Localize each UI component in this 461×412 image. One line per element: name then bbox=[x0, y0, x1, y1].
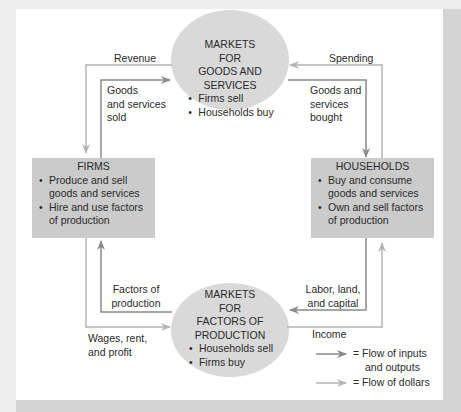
goods-market-line1: MARKETS bbox=[171, 38, 289, 52]
goods-bought-label: Goods and services bought bbox=[310, 84, 361, 125]
factor-market-bullet: Households sell bbox=[187, 342, 273, 356]
households-bullet-line: of production bbox=[328, 214, 389, 226]
households-bullet-line: goods and services bbox=[328, 187, 418, 199]
firms-title: FIRMS bbox=[32, 160, 155, 174]
factor-market-line2: FOR bbox=[166, 302, 294, 316]
factor-market-label: MARKETS FOR FACTORS OF PRODUCTION Househ… bbox=[166, 288, 294, 369]
goods-market-label: MARKETS FOR GOODS AND SERVICES Firms sel… bbox=[171, 38, 289, 119]
goods-bought-line: Goods and bbox=[310, 84, 361, 98]
legend-dollars-label: = Flow of dollars bbox=[353, 376, 430, 390]
firms-bullet-line: of production bbox=[49, 214, 110, 226]
revenue-label: Revenue bbox=[114, 52, 156, 66]
firms-bullet-line: Produce and sell bbox=[49, 174, 127, 186]
factor-market-bullets: Households sell Firms buy bbox=[187, 342, 273, 369]
goods-sold-label: Goods and services sold bbox=[107, 84, 166, 125]
goods-market-line2: FOR bbox=[171, 52, 289, 66]
firms-bullet: Produce and sellgoods and services bbox=[32, 174, 155, 201]
wages-line: and profit bbox=[88, 346, 147, 360]
goods-sold-line: and services bbox=[107, 98, 166, 112]
firms-box: FIRMS Produce and sellgoods and services… bbox=[32, 158, 155, 238]
goods-bought-line: bought bbox=[310, 111, 361, 125]
households-bullet-line: Own and sell factors bbox=[328, 201, 423, 213]
goods-sold-line: sold bbox=[107, 111, 166, 125]
factor-market-bullet: Firms buy bbox=[187, 356, 273, 370]
households-title: HOUSEHOLDS bbox=[311, 160, 434, 174]
factors-line: Factors of bbox=[108, 283, 164, 297]
legend-inputs-line: and outputs bbox=[353, 361, 427, 375]
factor-market-line1: MARKETS bbox=[166, 288, 294, 302]
firms-bullet-line: goods and services bbox=[49, 187, 139, 199]
households-bullet-line: Buy and consume bbox=[328, 174, 412, 186]
labor-label: Labor, land, and capital bbox=[304, 283, 362, 310]
labor-line: and capital bbox=[304, 297, 362, 311]
legend-inputs-line: = Flow of inputs bbox=[353, 347, 427, 361]
firms-bullet: Hire and use factorsof production bbox=[32, 201, 155, 228]
wages-line: Wages, rent, bbox=[88, 332, 147, 346]
factors-of-production-label: Factors of production bbox=[108, 283, 164, 310]
goods-bought-line: services bbox=[310, 98, 361, 112]
factors-line: production bbox=[108, 297, 164, 311]
income-label: Income bbox=[312, 328, 346, 342]
goods-sold-line: Goods bbox=[107, 84, 166, 98]
goods-market-bullet: Firms sell bbox=[186, 92, 273, 106]
firms-bullet-line: Hire and use factors bbox=[49, 201, 143, 213]
goods-market-bullet: Households buy bbox=[186, 106, 273, 120]
legend-inputs-label: = Flow of inputs and outputs bbox=[353, 347, 427, 374]
spending-label: Spending bbox=[329, 52, 373, 66]
factor-market-line3: FACTORS OF PRODUCTION bbox=[166, 315, 294, 342]
wages-label: Wages, rent, and profit bbox=[88, 332, 147, 359]
goods-market-bullets: Firms sell Households buy bbox=[186, 92, 273, 119]
goods-market-line3: GOODS AND SERVICES bbox=[171, 65, 289, 92]
households-bullet: Buy and consumegoods and services bbox=[311, 174, 434, 201]
households-bullet: Own and sell factorsof production bbox=[311, 201, 434, 228]
labor-line: Labor, land, bbox=[304, 283, 362, 297]
households-box: HOUSEHOLDS Buy and consumegoods and serv… bbox=[311, 158, 434, 238]
